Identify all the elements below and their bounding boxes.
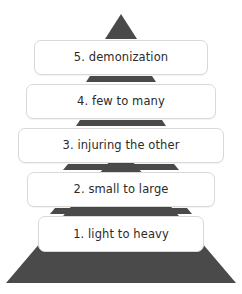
pyramid-level-3-label: 3. injuring the other [62,139,179,152]
pyramid-level-1-label: 1. light to heavy [73,228,169,241]
pyramid-level-1[interactable]: 1. light to heavy [38,216,204,252]
pyramid-level-5[interactable]: 5. demonization [34,40,208,75]
pyramid-level-2-label: 2. small to large [74,183,169,196]
pyramid-level-4-label: 4. few to many [77,95,165,108]
pyramid-level-2[interactable]: 2. small to large [27,172,215,207]
pyramid-level-3[interactable]: 3. injuring the other [18,128,224,163]
pyramid-levels-layer: 5. demonization 4. few to many 3. injuri… [0,0,242,294]
pyramid-diagram: 5. demonization 4. few to many 3. injuri… [0,0,242,294]
pyramid-level-4[interactable]: 4. few to many [26,84,216,119]
pyramid-level-5-label: 5. demonization [74,51,168,64]
